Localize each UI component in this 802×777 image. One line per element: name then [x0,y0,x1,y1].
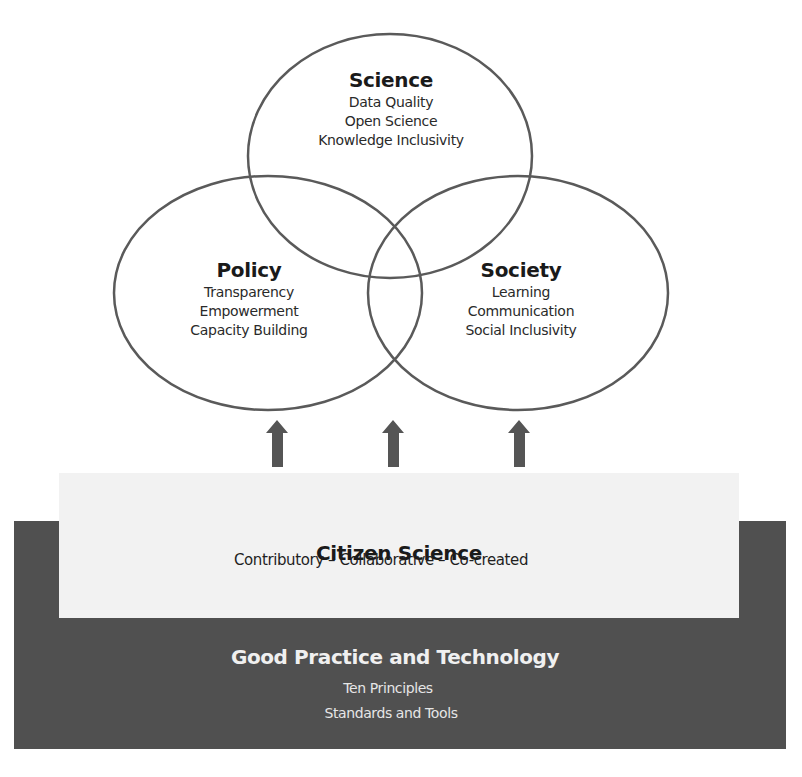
foundation-item: Ten Principles [343,680,433,696]
society-item: Communication [465,302,576,321]
society-item: Social Inclusivity [465,321,576,340]
policy-item: Transparency [190,283,307,302]
up-arrow-icon [382,420,404,467]
citizen-science-subtitle: Contributory – Collaborative – Co-create… [234,551,528,569]
foundation-item: Standards and Tools [324,705,457,721]
up-arrow-icon [266,420,288,467]
society-title: Society [465,257,576,283]
policy-item: Empowerment [190,302,307,321]
policy-item: Capacity Building [190,321,307,340]
science-title: Science [318,67,464,93]
society-label: Society Learning Communication Social In… [465,257,576,340]
science-item: Data Quality [318,93,464,112]
policy-title: Policy [190,257,307,283]
foundation-title: Good Practice and Technology [231,645,559,669]
policy-label: Policy Transparency Empowerment Capacity… [190,257,307,340]
science-label: Science Data Quality Open Science Knowle… [318,67,464,150]
society-item: Learning [465,283,576,302]
science-item: Knowledge Inclusivity [318,131,464,150]
up-arrow-icon [508,420,530,467]
science-item: Open Science [318,112,464,131]
